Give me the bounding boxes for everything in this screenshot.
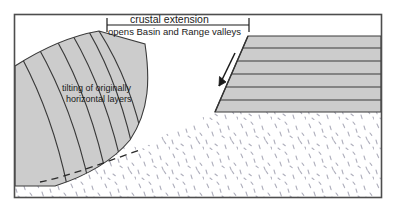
geologic-cross-section-figure: crustal extension opens Basin and Range … <box>0 0 396 211</box>
cross-section-canvas <box>0 0 396 211</box>
scene-contents <box>15 15 381 197</box>
